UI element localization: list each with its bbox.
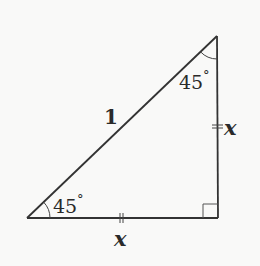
angle-label-bottom-left: 45 <box>53 195 77 217</box>
right-leg-line <box>217 36 218 218</box>
bottom-side-label: x <box>113 226 127 251</box>
hypotenuse-line <box>27 36 217 218</box>
angle-arc-bottom-left <box>44 202 50 218</box>
degree-top-right: ° <box>203 68 210 83</box>
hypotenuse-label: 1 <box>104 105 118 129</box>
right-angle-marker <box>203 204 218 218</box>
angle-arc-top-right <box>201 52 218 59</box>
degree-bottom-left: ° <box>77 192 84 207</box>
angle-label-top-right: 45 <box>179 71 203 93</box>
right-side-label: x <box>223 115 237 140</box>
right-triangle-diagram: 1 x x 45 ° 45 ° <box>0 0 260 266</box>
